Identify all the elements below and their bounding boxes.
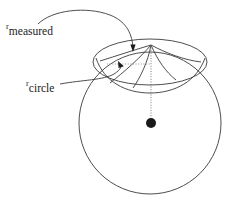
label-r-circle: rcircle (26, 79, 54, 95)
label-r-measured: rmeasured (6, 22, 53, 38)
meridian-arc-3 (151, 45, 176, 80)
leader-arrowhead-circle (118, 61, 124, 68)
meridian-arcs (100, 45, 201, 88)
sphere-center-dot (146, 118, 156, 128)
label-r-circle-subscript: circle (29, 82, 55, 94)
meridian-arc-2 (133, 45, 151, 88)
label-r-measured-subscript: measured (9, 25, 53, 37)
figure-container: rmeasured rcircle (0, 0, 238, 198)
